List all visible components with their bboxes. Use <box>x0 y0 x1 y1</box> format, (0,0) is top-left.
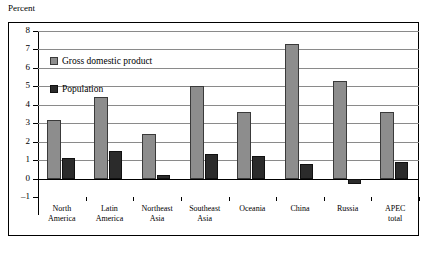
y-axis-tick-label: 2 <box>4 137 30 146</box>
x-axis-tick <box>133 197 134 201</box>
bar-gdp <box>142 134 156 178</box>
y-axis-tick-label: 3 <box>4 118 30 127</box>
gridline <box>38 31 419 32</box>
gridline <box>38 68 419 69</box>
bar-gdp <box>380 112 394 178</box>
x-axis-tick <box>419 197 420 201</box>
y-axis-tick <box>33 197 38 198</box>
legend-swatch-gdp <box>50 57 58 65</box>
y-axis-tick-label: 1 <box>4 155 30 164</box>
x-axis: NorthAmericaLatinAmericaNortheastAsiaSou… <box>38 197 419 236</box>
bar-gdp <box>47 120 61 179</box>
y-axis-tick <box>33 31 38 32</box>
legend-item: Population <box>50 84 103 94</box>
x-axis-tick <box>181 197 182 201</box>
x-axis-tick <box>324 197 325 201</box>
legend-item: Gross domestic product <box>50 56 152 66</box>
y-axis-tick <box>33 68 38 69</box>
x-axis-category-label: LatinAmerica <box>86 204 134 223</box>
bar-population <box>205 154 218 179</box>
y-axis-tick-label: –1 <box>4 192 30 201</box>
bar-population <box>348 179 361 185</box>
x-axis-category-label: SoutheastAsia <box>181 204 229 223</box>
y-axis-tick <box>33 49 38 50</box>
y-axis-tick <box>33 105 38 106</box>
x-axis-category-label: NorthAmerica <box>38 204 86 223</box>
bar-gdp <box>333 81 347 179</box>
x-axis-tick <box>229 197 230 201</box>
bar-population <box>62 158 75 178</box>
gridline <box>38 49 419 50</box>
y-axis-tick <box>33 86 38 87</box>
bar-chart: Percent –1012345678 NorthAmericaLatinAme… <box>0 0 427 253</box>
x-axis-category-label: NortheastAsia <box>133 204 181 223</box>
x-axis-tick <box>86 197 87 201</box>
bar-population <box>109 151 122 179</box>
x-axis-category-label: Oceania <box>229 204 277 214</box>
bar-population <box>300 164 313 179</box>
bar-gdp <box>94 97 108 178</box>
bar-gdp <box>285 44 299 179</box>
y-axis-tick-label: 8 <box>4 26 30 35</box>
x-axis-tick <box>38 197 39 201</box>
x-axis-category-label: Russia <box>324 204 372 214</box>
y-axis-tick-label: 7 <box>4 44 30 53</box>
y-axis-tick-label: 6 <box>4 63 30 72</box>
bar-gdp <box>237 112 251 178</box>
y-axis-tick <box>33 123 38 124</box>
bar-population <box>252 156 265 178</box>
y-axis-labels: –1012345678 <box>2 0 30 253</box>
y-axis-tick-label: 5 <box>4 81 30 90</box>
x-axis-category-label: APECtotal <box>371 204 419 223</box>
legend-label: Gross domestic product <box>62 56 152 66</box>
bar-population <box>395 162 408 179</box>
bar-gdp <box>190 86 204 178</box>
bar-population <box>157 175 170 179</box>
y-axis-tick-label: 0 <box>4 174 30 183</box>
y-axis-tick-label: 4 <box>4 100 30 109</box>
legend-label: Population <box>62 84 103 94</box>
legend-swatch-pop <box>50 85 58 93</box>
y-axis-tick <box>33 142 38 143</box>
x-axis-tick <box>276 197 277 201</box>
zero-baseline <box>38 179 419 180</box>
y-axis-tick <box>33 179 38 180</box>
x-axis-tick <box>371 197 372 201</box>
x-axis-category-label: China <box>276 204 324 214</box>
y-axis-tick <box>33 160 38 161</box>
